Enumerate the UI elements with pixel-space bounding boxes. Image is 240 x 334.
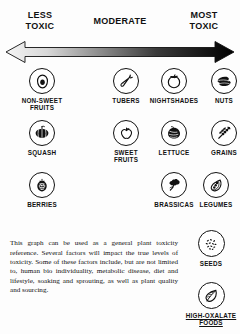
berries-icon: [29, 172, 55, 198]
icon-label: SQUASH: [14, 149, 70, 156]
icon-label: NIGHTSHADES: [146, 97, 202, 104]
chart-item-grains[interactable]: GRAINS: [196, 120, 240, 156]
chart-item-squash[interactable]: SQUASH: [14, 120, 70, 156]
chart-item-high-oxalate-foods[interactable]: HIGH-OXALATE FOODS: [180, 282, 240, 327]
tomato-icon: [161, 68, 187, 94]
toxicity-gradient-arrow: [6, 40, 234, 64]
chart-item-non-sweet-fruits[interactable]: NON-SWEET FRUITS: [14, 68, 70, 112]
avocado-icon: [29, 68, 55, 94]
icon-label: HIGH-OXALATE FOODS: [180, 312, 240, 327]
chart-item-legumes[interactable]: LEGUMES: [188, 172, 240, 208]
chart-item-lettuce[interactable]: LETTUCE: [146, 120, 202, 156]
toxicity-chart-page: LESS TOXIC MODERATE MOST TOXIC: [0, 0, 240, 334]
icon-label: LETTUCE: [146, 149, 202, 156]
apple-icon: [113, 120, 139, 146]
squash-icon: [29, 120, 55, 146]
icon-label: NUTS: [196, 97, 240, 104]
scale-labels: LESS TOXIC MODERATE MOST TOXIC: [0, 10, 240, 36]
chart-item-berries[interactable]: BERRIES: [14, 172, 70, 208]
icon-label: SEEDS: [180, 260, 240, 267]
leaf-icon: [198, 282, 225, 309]
icon-label: BERRIES: [14, 201, 70, 208]
lettuce-icon: [161, 120, 187, 146]
seeds-icon: [198, 230, 225, 257]
grains-icon: [211, 120, 237, 146]
chart-item-nuts[interactable]: NUTS: [196, 68, 240, 104]
chart-item-nightshades[interactable]: NIGHTSHADES: [146, 68, 202, 104]
carrot-icon: [113, 68, 139, 94]
icon-label: LEGUMES: [188, 201, 240, 208]
scale-label-most-toxic: MOST TOXIC: [178, 10, 230, 32]
icon-label: NON-SWEET FRUITS: [14, 97, 70, 112]
broccoli-icon: [161, 172, 187, 198]
chart-item-seeds[interactable]: SEEDS: [180, 230, 240, 267]
scale-label-less-toxic: LESS TOXIC: [14, 10, 66, 32]
chart-caption: This graph can be used as a general plan…: [10, 239, 178, 295]
nuts-icon: [211, 68, 237, 94]
scale-label-moderate: MODERATE: [84, 16, 156, 27]
peapod-icon: [203, 172, 229, 198]
icon-label: GRAINS: [196, 149, 240, 156]
